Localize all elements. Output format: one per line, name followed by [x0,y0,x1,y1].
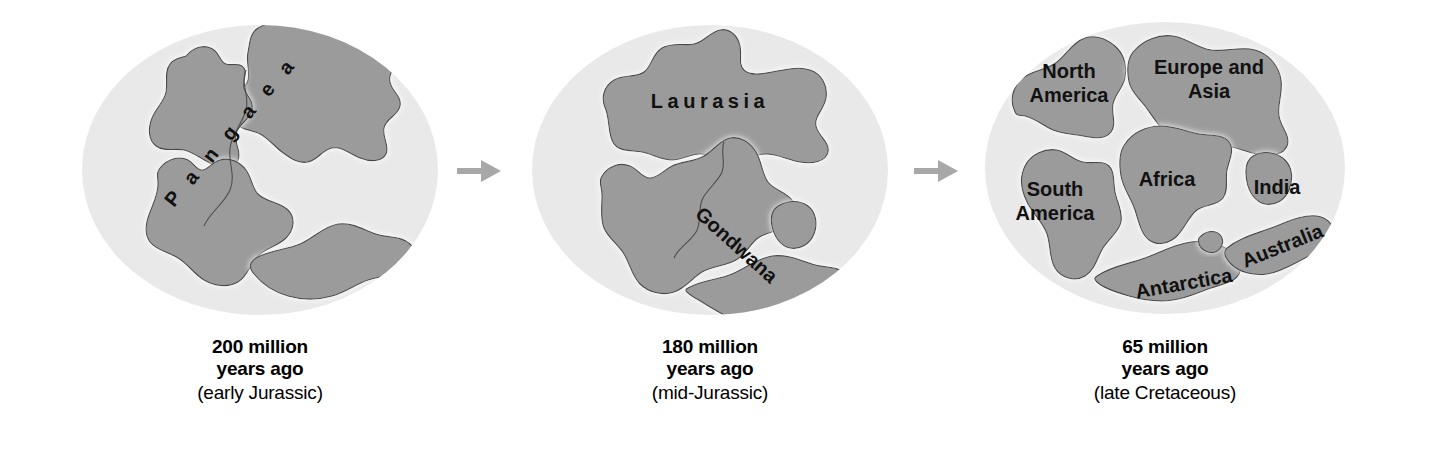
label-laurasia: Laurasia [651,90,769,112]
arrow-right-icon [912,155,962,187]
pangaea-map-svg: P a n g a e a [60,0,460,330]
label-south-america-line2: America [1016,202,1096,224]
label-africa: Africa [1139,168,1197,190]
caption-line-2: years ago [965,358,1365,380]
label-north-america-line2: America [1030,84,1110,106]
panel-laurasia-gondwana: Laurasia Gondwana 180 million years ago … [510,0,910,452]
caption-pangaea: 200 million years ago (early Jurassic) [60,336,460,404]
label-europe-asia-line2: Asia [1188,80,1231,102]
label-europe-asia-line1: Europe and [1154,56,1264,78]
continental-drift-figure: P a n g a e a 200 million years ago (ear… [0,0,1431,452]
arrow-2 [912,155,962,187]
caption-line-1: 200 million [60,336,460,358]
panel-pangaea: P a n g a e a 200 million years ago (ear… [60,0,460,452]
caption-modern-continents: 65 million years ago (late Cretaceous) [965,336,1365,404]
globe-laurasia-gondwana: Laurasia Gondwana [510,0,910,330]
caption-laurasia-gondwana: 180 million years ago (mid-Jurassic) [510,336,910,404]
caption-line-3: (mid-Jurassic) [510,382,910,404]
caption-line-2: years ago [60,358,460,380]
caption-line-1: 65 million [965,336,1365,358]
caption-line-1: 180 million [510,336,910,358]
caption-line-3: (early Jurassic) [60,382,460,404]
globe-modern-continents: North America Europe and Asia South Amer… [965,0,1365,330]
landmass-antarctic-peninsula [1198,232,1222,253]
caption-line-3: (late Cretaceous) [965,382,1365,404]
caption-line-2: years ago [510,358,910,380]
globe-pangaea: P a n g a e a [60,0,460,330]
arrow-right-icon [455,155,505,187]
modern-continents-map-svg: North America Europe and Asia South Amer… [965,0,1365,330]
label-north-america-line1: North [1042,60,1095,82]
arrow-1 [455,155,505,187]
label-india: India [1254,176,1302,198]
panel-modern-continents: North America Europe and Asia South Amer… [965,0,1365,452]
label-south-america-line1: South [1027,178,1084,200]
laurasia-gondwana-map-svg: Laurasia Gondwana [510,0,910,330]
